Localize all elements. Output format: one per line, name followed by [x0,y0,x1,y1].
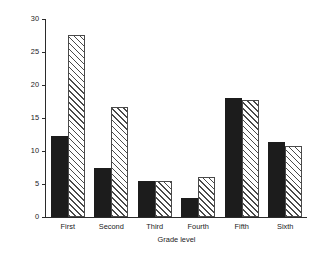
x-axis-tick-label: Sixth [255,221,315,232]
bar-group [181,19,215,217]
bar-hatched [242,100,259,217]
bar-hatched [198,177,215,217]
y-axis-tick: 30 [42,19,46,20]
y-axis-tick-label: 20 [31,79,39,90]
bar-group [268,19,302,217]
y-axis-tick-label: 30 [31,13,39,24]
bar-solid [268,142,285,217]
bar-hatched [111,107,128,217]
bar-group [94,19,128,217]
bar-chart-figure: I.Q. Increase (points) 051015202530 Firs… [0,0,323,261]
bar-solid [181,198,198,217]
bar-group [138,19,172,217]
y-axis-tick: 10 [42,151,46,152]
bar-group [51,19,85,217]
y-axis-tick-label: 25 [31,46,39,57]
x-axis-title: Grade level [46,234,307,245]
y-axis-tick-label: 5 [35,178,39,189]
bar-group [225,19,259,217]
plot-area: 051015202530 FirstSecondThirdFourthFifth… [46,19,307,217]
y-axis-tick: 0 [42,217,46,218]
bar-hatched [155,181,172,217]
y-axis-tick: 5 [42,184,46,185]
y-axis-tick-label: 10 [31,145,39,156]
bar-hatched [285,146,302,217]
y-axis-tick: 25 [42,52,46,53]
bar-solid [94,168,111,217]
y-axis-tick: 20 [42,85,46,86]
y-axis-tick: 15 [42,118,46,119]
bar-solid [225,98,242,217]
x-axis-line [45,217,307,218]
bar-solid [138,181,155,217]
bar-hatched [68,35,85,217]
bar-solid [51,136,68,217]
y-axis-tick-label: 15 [31,112,39,123]
